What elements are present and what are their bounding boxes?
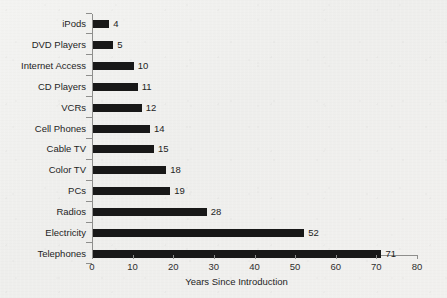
x-axis-tick bbox=[133, 255, 134, 259]
x-axis-title: Years Since Introduction bbox=[0, 276, 447, 287]
y-axis-tick bbox=[86, 159, 92, 160]
y-axis-tick bbox=[86, 13, 92, 14]
y-axis-tick bbox=[86, 138, 92, 139]
bar-value-label: 12 bbox=[146, 103, 157, 113]
y-axis-tick bbox=[86, 75, 92, 76]
category-label: Telephones bbox=[37, 249, 86, 259]
category-label: Radios bbox=[56, 207, 86, 217]
category-label: iPods bbox=[62, 19, 86, 29]
bar bbox=[93, 166, 166, 174]
x-axis-tick-label: 30 bbox=[209, 261, 220, 272]
bar bbox=[93, 250, 381, 258]
bar bbox=[93, 208, 207, 216]
y-axis-tick bbox=[86, 96, 92, 97]
x-axis-tick-label: 20 bbox=[168, 261, 179, 272]
bar-value-label: 15 bbox=[158, 144, 169, 154]
bar bbox=[93, 20, 109, 28]
bar-value-label: 19 bbox=[174, 186, 185, 196]
bar bbox=[93, 104, 142, 112]
x-axis-tick-label: 50 bbox=[290, 261, 301, 272]
bar-chart: 4510111214151819285271 iPodsDVD PlayersI… bbox=[0, 0, 447, 298]
category-label: Color TV bbox=[49, 165, 86, 175]
category-label: VCRs bbox=[61, 103, 86, 113]
bar-value-label: 71 bbox=[385, 249, 396, 259]
y-axis-tick bbox=[86, 222, 92, 223]
x-axis-tick-label: 60 bbox=[330, 261, 341, 272]
x-axis-tick bbox=[376, 255, 377, 259]
category-label: Internet Access bbox=[21, 61, 86, 71]
bar-value-label: 18 bbox=[170, 165, 181, 175]
x-axis-tick-label: 10 bbox=[127, 261, 138, 272]
bar-value-label: 5 bbox=[117, 40, 122, 50]
y-axis-tick bbox=[86, 201, 92, 202]
bar bbox=[93, 125, 150, 133]
category-label: PCs bbox=[68, 186, 86, 196]
x-axis-tick bbox=[92, 255, 93, 259]
x-axis-tick bbox=[173, 255, 174, 259]
category-label: CD Players bbox=[38, 82, 86, 92]
x-axis-tick bbox=[417, 255, 418, 259]
x-axis-tick-label: 80 bbox=[412, 261, 423, 272]
y-axis-tick bbox=[86, 180, 92, 181]
y-axis-tick bbox=[86, 54, 92, 55]
y-axis-line bbox=[92, 14, 93, 255]
bar-value-label: 4 bbox=[113, 19, 118, 29]
category-label: Electricity bbox=[45, 228, 86, 238]
category-label: DVD Players bbox=[32, 40, 86, 50]
bar bbox=[93, 229, 304, 237]
bar-value-label: 28 bbox=[211, 207, 222, 217]
y-axis-tick bbox=[86, 242, 92, 243]
x-axis-tick-label: 70 bbox=[371, 261, 382, 272]
x-axis-tick bbox=[295, 255, 296, 259]
bar bbox=[93, 41, 113, 49]
y-axis-tick bbox=[86, 33, 92, 34]
category-label: Cable TV bbox=[47, 144, 86, 154]
bar-value-label: 52 bbox=[308, 228, 319, 238]
x-axis-tick bbox=[255, 255, 256, 259]
bar-value-label: 10 bbox=[138, 61, 149, 71]
x-axis-tick-label: 0 bbox=[89, 261, 94, 272]
x-axis-tick bbox=[214, 255, 215, 259]
bar-value-label: 14 bbox=[154, 124, 165, 134]
y-axis-tick bbox=[86, 117, 92, 118]
bar bbox=[93, 145, 154, 153]
plot-area: 4510111214151819285271 iPodsDVD PlayersI… bbox=[0, 0, 447, 298]
x-axis-tick-label: 40 bbox=[249, 261, 260, 272]
x-axis-tick bbox=[336, 255, 337, 259]
bar bbox=[93, 187, 170, 195]
bar bbox=[93, 83, 138, 91]
bar bbox=[93, 62, 134, 70]
category-label: Cell Phones bbox=[35, 124, 86, 134]
bar-value-label: 11 bbox=[142, 82, 152, 92]
